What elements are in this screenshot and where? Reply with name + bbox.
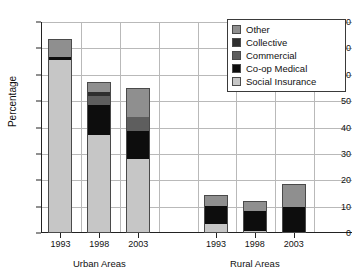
- x-tick-label: 1993: [206, 239, 226, 249]
- y-tick-mark: [36, 233, 41, 234]
- bar-segment-commercial: [126, 117, 150, 131]
- x-tick-mark: [99, 233, 100, 238]
- legend-item[interactable]: Other: [232, 23, 341, 36]
- bar-segment-co-op-medical: [204, 206, 228, 223]
- bar-segment-co-op-medical: [87, 105, 111, 135]
- bar-segment-other: [243, 201, 267, 210]
- y-tick-mark: [36, 127, 41, 128]
- bar-segment-co-op-medical: [48, 57, 72, 60]
- bar-segment-other: [87, 82, 111, 93]
- bar-segment-social-insurance: [126, 159, 150, 233]
- bar-segment-collective: [87, 92, 111, 95]
- y-tick-label: 50: [341, 96, 351, 106]
- x-tick-label: 1993: [50, 239, 70, 249]
- legend-label: Commercial: [246, 51, 297, 61]
- y-tick-label: 40: [341, 123, 351, 133]
- group-label: Rural Areas: [230, 258, 280, 269]
- legend-swatch-icon: [232, 51, 241, 60]
- x-tick-mark: [60, 233, 61, 238]
- y-axis: Percentage: [0, 0, 41, 255]
- group-label: Urban Areas: [73, 258, 126, 269]
- y-tick-label: 0: [346, 228, 351, 238]
- legend-swatch-icon: [232, 25, 241, 34]
- bar-stack[interactable]: [204, 22, 228, 233]
- legend-rows: OtherCollectiveCommercialCo-op MedicalSo…: [232, 23, 341, 88]
- bar-segment-co-op-medical: [282, 207, 306, 231]
- x-gridline: [120, 22, 121, 232]
- x-gridline: [159, 22, 160, 232]
- bar-stack[interactable]: [126, 22, 150, 233]
- bar-segment-co-op-medical: [126, 131, 150, 159]
- y-tick-label: 10: [341, 202, 351, 212]
- y-tick-mark: [36, 74, 41, 75]
- y-tick-label: 30: [341, 149, 351, 159]
- y-tick-mark: [36, 48, 41, 49]
- legend-item[interactable]: Co-op Medical: [232, 62, 341, 75]
- bar-segment-co-op-medical: [243, 211, 267, 232]
- bar-segment-other: [204, 195, 228, 207]
- x-gridline: [198, 22, 199, 232]
- legend-swatch-icon: [232, 38, 241, 47]
- x-tick-label: 2003: [128, 239, 148, 249]
- chart-figure: Percentage 01020304050607080199319982003…: [0, 0, 359, 279]
- bar-segment-other: [282, 184, 306, 207]
- x-tick-label: 2003: [284, 239, 304, 249]
- legend-label: Collective: [246, 38, 287, 48]
- y-tick-mark: [36, 180, 41, 181]
- legend-label: Social Insurance: [246, 77, 316, 87]
- x-tick-mark: [138, 233, 139, 238]
- bar-stack[interactable]: [87, 22, 111, 233]
- legend-item[interactable]: Collective: [232, 36, 341, 49]
- legend-item[interactable]: Commercial: [232, 49, 341, 62]
- legend-label: Co-op Medical: [246, 64, 307, 74]
- x-gridline: [81, 22, 82, 232]
- legend-item[interactable]: Social Insurance: [232, 75, 341, 88]
- x-tick-label: 1998: [89, 239, 109, 249]
- x-tick-label: 1998: [245, 239, 265, 249]
- legend-swatch-icon: [232, 77, 241, 86]
- x-tick-mark: [294, 233, 295, 238]
- y-tick-mark: [36, 101, 41, 102]
- legend-label: Other: [246, 25, 270, 35]
- bar-segment-social-insurance: [87, 135, 111, 233]
- bar-segment-social-insurance: [204, 224, 228, 233]
- x-tick-mark: [255, 233, 256, 238]
- bar-segment-other: [126, 88, 150, 117]
- y-axis-title: Percentage: [7, 57, 18, 147]
- bar-stack[interactable]: [48, 22, 72, 233]
- y-tick-label: 20: [341, 175, 351, 185]
- bar-segment-other: [48, 39, 72, 57]
- y-tick-mark: [36, 206, 41, 207]
- bar-segment-social-insurance: [48, 60, 72, 233]
- y-tick-mark: [36, 22, 41, 23]
- y-tick-mark: [36, 153, 41, 154]
- chart-legend: OtherCollectiveCommercialCo-op MedicalSo…: [227, 19, 346, 92]
- bar-segment-commercial: [87, 96, 111, 105]
- x-tick-mark: [216, 233, 217, 238]
- legend-swatch-icon: [232, 64, 241, 73]
